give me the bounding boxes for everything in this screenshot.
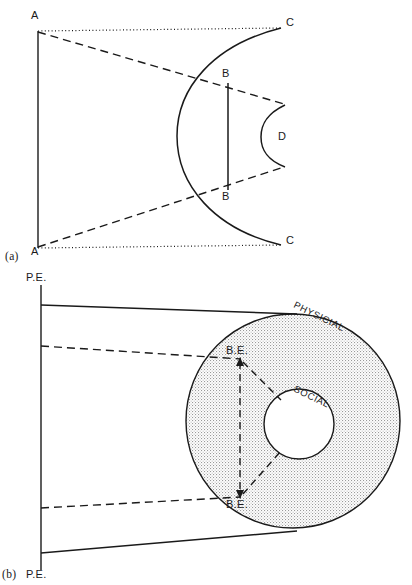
panel-b-dashed-bottom	[41, 497, 241, 508]
label-c-bottom: C	[286, 235, 294, 246]
label-a-top: A	[31, 10, 39, 21]
panel-a-dotted-bottom	[38, 245, 281, 248]
label-b-top: B	[222, 68, 230, 79]
panel-a-large-arc	[177, 28, 281, 245]
diagram-svg	[0, 0, 412, 585]
panel-b-graphics	[41, 285, 400, 570]
caption-a: (a)	[5, 251, 19, 262]
label-be-top: B.E.	[226, 345, 248, 356]
caption-b: (b)	[2, 569, 16, 580]
label-c-top: C	[286, 17, 294, 28]
panel-b-solid-bottom	[41, 531, 297, 553]
label-b-bottom: B	[222, 191, 230, 202]
label-a-bottom: A	[31, 246, 39, 257]
panel-a-dotted-top	[38, 28, 281, 31]
label-d: D	[278, 131, 286, 142]
label-be-bottom: B.E.	[226, 499, 248, 510]
panel-b-solid-top	[41, 305, 297, 314]
panel-a-dashed-bottom	[38, 167, 284, 247]
figure-container: A A C C B B D (a) P.E. P.E. (b) B.E. B.E…	[0, 0, 412, 585]
panel-a-dashed-top	[38, 32, 284, 104]
label-pe-bottom: P.E.	[26, 569, 47, 580]
label-pe-top: P.E.	[26, 272, 47, 283]
panel-a-graphics	[38, 28, 285, 248]
